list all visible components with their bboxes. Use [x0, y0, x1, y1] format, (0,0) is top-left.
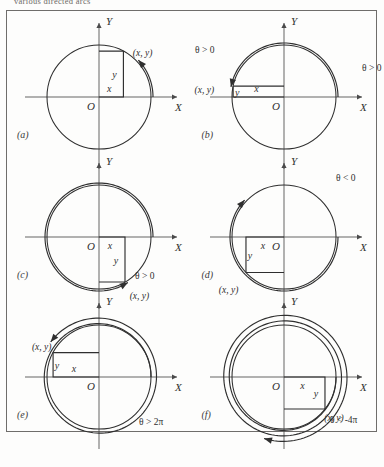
theta-label: θ < -4π: [330, 415, 358, 425]
arrowhead: [264, 437, 273, 443]
point-label: (x, y): [32, 342, 52, 353]
panel-d: XYOxy(x, y)θ < 0(d): [192, 151, 377, 291]
panel-c: XYOxy(x, y)θ > 0(c): [7, 151, 192, 291]
panel-d-diagram: XYOxy(x, y)θ < 0: [192, 151, 378, 292]
panel-f: XYOxy(x, y)θ < -4π(f): [192, 291, 377, 431]
leg-x-label: x: [107, 240, 113, 251]
y-axis-label: Y: [291, 15, 299, 27]
point-label: (x, y): [194, 85, 214, 96]
leg-x-label: x: [259, 240, 265, 251]
figure-caption: various directed arcs: [14, 0, 91, 6]
leg-x-label: x: [71, 363, 77, 374]
origin-label: O: [87, 240, 95, 252]
x-axis-label: X: [359, 241, 368, 253]
panel-e-diagram: XYOxy(x, y)θ > 2π: [7, 291, 193, 432]
leg-x-label: x: [299, 380, 305, 391]
x-axis-label: X: [174, 381, 183, 393]
origin-label: O: [87, 380, 95, 392]
origin-label: O: [272, 100, 280, 112]
x-axis-label: X: [359, 101, 368, 113]
panel-d-label: (d): [202, 269, 214, 280]
theta-label: θ < 0: [336, 173, 356, 183]
origin-label: O: [87, 100, 95, 112]
theta-label: θ > 0: [362, 63, 382, 73]
point-label: (x, y): [133, 48, 153, 59]
panel-a-label: (a): [17, 129, 29, 140]
directed-arc: [44, 318, 156, 433]
leg-y-label: y: [233, 87, 239, 98]
origin-label: O: [272, 380, 280, 392]
panel-f-diagram: XYOxy(x, y)θ < -4π: [192, 291, 378, 432]
panel-c-diagram: XYOxy(x, y)θ > 0: [7, 151, 193, 292]
panel-a-diagram: XYOxy(x, y)θ > 0: [7, 11, 193, 152]
leg-x-label: x: [106, 83, 112, 94]
leg-y-label: y: [246, 250, 252, 261]
panel-e-label: (e): [17, 409, 28, 420]
figure-frame: XYOxy(x, y)θ > 0(a)XYOxy(x, y)θ > 0(b)XY…: [6, 10, 377, 432]
leg-y-label: y: [54, 360, 60, 371]
panel-e: XYOxy(x, y)θ > 2π(e): [7, 291, 192, 431]
x-axis-label: X: [174, 101, 183, 113]
panel-c-label: (c): [17, 269, 28, 280]
x-axis-label: X: [174, 241, 183, 253]
panel-a: XYOxy(x, y)θ > 0(a): [7, 11, 192, 151]
panel-b: XYOxy(x, y)θ > 0(b): [192, 11, 377, 151]
leg-y-label: y: [111, 69, 117, 80]
theta-label: θ > 0: [135, 271, 155, 281]
origin-label: O: [272, 240, 280, 252]
y-axis-label: Y: [106, 15, 114, 27]
directed-arc: [230, 43, 337, 97]
panel-b-diagram: XYOxy(x, y)θ > 0: [192, 11, 378, 152]
y-axis-label: Y: [106, 295, 114, 307]
leg-x-label: x: [253, 83, 259, 94]
y-axis-label: Y: [106, 155, 114, 167]
leg-y-label: y: [312, 388, 318, 399]
panel-b-label: (b): [202, 129, 214, 140]
arrowhead: [119, 283, 128, 290]
y-axis-label: Y: [291, 295, 299, 307]
x-axis-label: X: [359, 381, 368, 393]
leg-y-label: y: [113, 255, 119, 266]
panel-f-label: (f): [202, 409, 211, 420]
y-axis-label: Y: [291, 155, 299, 167]
theta-label: θ > 2π: [139, 417, 163, 427]
